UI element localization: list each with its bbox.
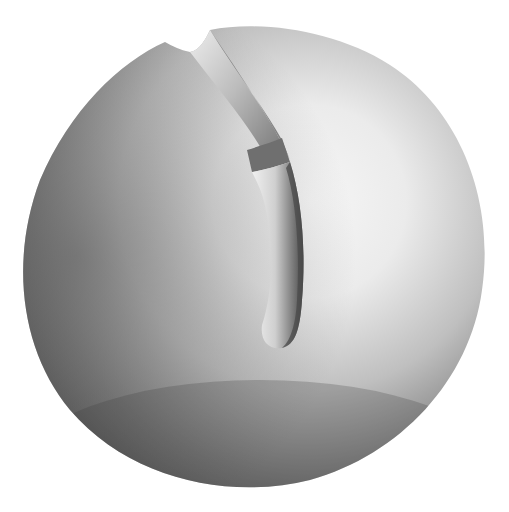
sculpture-photo (0, 0, 509, 512)
sphere (0, 0, 509, 512)
